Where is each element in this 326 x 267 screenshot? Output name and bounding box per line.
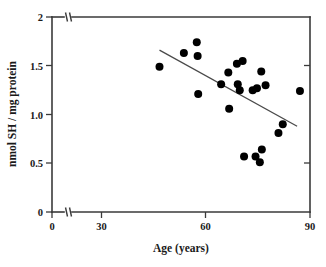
chart-canvas: 2 1.5 1.0 0.5 0 0 30 60 90 Age (years) n… [0, 0, 326, 267]
x-axis-break-mark-2 [70, 208, 72, 217]
data-point [194, 52, 202, 60]
data-point [224, 69, 232, 77]
data-point [262, 81, 270, 89]
x-tick-label-60: 60 [200, 221, 211, 232]
data-point [274, 129, 282, 137]
data-point [156, 63, 164, 71]
data-point [279, 120, 287, 128]
data-point [236, 86, 244, 94]
data-point [239, 57, 247, 65]
data-point [256, 158, 264, 166]
top-axis-break-mark-2 [70, 13, 72, 22]
data-points-group [156, 38, 304, 166]
y-axis-title: nmol SH / mg protein [6, 60, 19, 166]
x-axis-ticks [52, 212, 310, 218]
top-axis-break-mark-1 [66, 13, 68, 22]
right-axis-ticks [304, 66, 310, 164]
scatter-plot-figure: 2 1.5 1.0 0.5 0 0 30 60 90 Age (years) n… [0, 0, 326, 267]
data-point [194, 90, 202, 98]
data-point [257, 68, 265, 76]
x-tick-label-90: 90 [305, 221, 316, 232]
x-tick-label-0: 0 [49, 221, 54, 232]
data-point [193, 38, 201, 46]
y-tick-label-0.5: 0.5 [30, 158, 43, 169]
data-point [225, 105, 233, 113]
data-point [296, 87, 304, 95]
data-point [240, 152, 248, 160]
x-tick-label-30: 30 [96, 221, 107, 232]
regression-line-segment [160, 50, 298, 126]
y-tick-label-0: 0 [38, 207, 43, 218]
x-axis-break-mark-1 [66, 208, 68, 217]
regression-line [160, 50, 298, 126]
data-point [217, 80, 225, 88]
x-axis-title: Age (years) [153, 242, 209, 255]
data-point [180, 49, 188, 57]
y-tick-label-2: 2 [38, 12, 43, 23]
data-point [258, 146, 266, 154]
y-axis-ticks [46, 17, 52, 212]
y-tick-label-1.0: 1.0 [30, 110, 43, 121]
data-point [253, 84, 261, 92]
y-tick-label-1.5: 1.5 [30, 61, 43, 72]
